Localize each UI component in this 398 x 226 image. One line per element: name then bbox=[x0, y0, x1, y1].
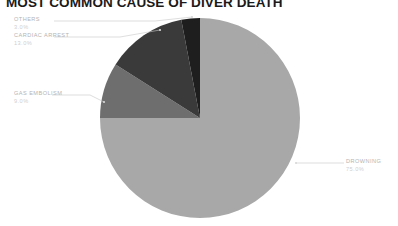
callout-others[interactable]: OTHERS 3.0% bbox=[14, 15, 40, 31]
pie-slices bbox=[100, 18, 300, 218]
callout-cardiac-arrest-label: CARDIAC ARREST bbox=[14, 31, 69, 39]
callout-gas-embolism-value: 9.0% bbox=[14, 97, 62, 105]
pie-chart-figure: MOST COMMON CAUSE OF DIVER DEATH OTHERS bbox=[0, 0, 398, 226]
callout-cardiac-arrest-value: 13.0% bbox=[14, 39, 69, 47]
callout-drowning-value: 75.0% bbox=[346, 165, 381, 173]
callout-gas-embolism[interactable]: GAS EMBOLISM 9.0% bbox=[14, 89, 62, 105]
callout-others-value: 3.0% bbox=[14, 23, 40, 31]
callout-others-label: OTHERS bbox=[14, 15, 40, 23]
callout-gas-embolism-label: GAS EMBOLISM bbox=[14, 89, 62, 97]
callout-drowning[interactable]: DROWNING 75.0% bbox=[346, 157, 381, 173]
callout-cardiac-arrest[interactable]: CARDIAC ARREST 13.0% bbox=[14, 31, 69, 47]
leader-dot-drowning bbox=[295, 162, 297, 164]
leader-dot-others bbox=[191, 16, 193, 18]
leader-dot-cardiac-arrest bbox=[159, 29, 161, 31]
leader-dot-gas-embolism bbox=[103, 101, 105, 103]
leader-line-others bbox=[54, 17, 192, 21]
callout-drowning-label: DROWNING bbox=[346, 157, 381, 165]
